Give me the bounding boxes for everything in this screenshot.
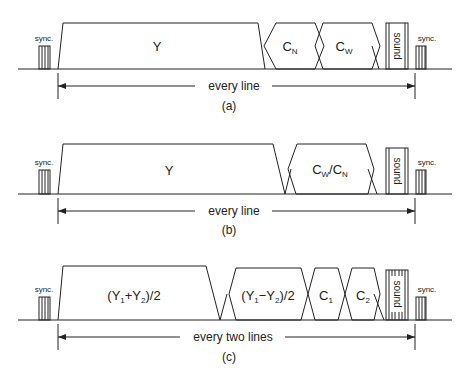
sound-block-c: sound <box>386 270 408 320</box>
y-label-a: Y <box>153 39 162 54</box>
span-label-a: every line <box>208 79 260 93</box>
y-label-b: Y <box>165 163 174 178</box>
panel-c: sync. (Y1+Y2)/2 (Y1−Y2)/2 C1 C2 sound <box>18 266 452 364</box>
panel-b: sync. Y CW/CN sound sync. every line (b) <box>18 144 452 237</box>
sound-label-a: sound <box>392 32 403 59</box>
caption-b: (b) <box>222 223 237 237</box>
cw-cn-label-b: CW/CN <box>312 162 348 179</box>
c2-label-c: C2 <box>356 288 370 305</box>
sync-label-right-b: sync. <box>418 158 437 167</box>
c1-label-c: C1 <box>319 288 333 305</box>
sync-pulse-right-b <box>416 170 426 194</box>
sync-pulse-left-b <box>39 170 50 194</box>
cw-label-a: CW <box>336 39 353 56</box>
sync-pulse-left-c <box>39 297 50 320</box>
y-diff-label-c: (Y1−Y2)/2 <box>241 288 294 305</box>
sound-block-b: sound <box>386 148 408 194</box>
sound-label-c: sound <box>392 280 403 307</box>
span-label-c: every two lines <box>193 330 272 344</box>
y-block-a <box>58 23 265 69</box>
span-label-b: every line <box>208 204 260 218</box>
sound-label-b: sound <box>392 157 403 184</box>
mac-line-format-diagram: sync. Y CN CW sound sync. every lin <box>0 0 471 378</box>
sync-label-right-c: sync. <box>418 285 437 294</box>
cw-block-a <box>315 23 380 69</box>
sync-label-left-c: sync. <box>35 285 54 294</box>
caption-a: (a) <box>222 99 237 113</box>
cn-label-a: CN <box>282 39 297 56</box>
sync-label-left-b: sync. <box>35 158 54 167</box>
sound-block-a: sound <box>386 23 408 69</box>
sync-pulse-right-c <box>416 297 426 320</box>
sync-pulse-right-a <box>416 46 426 69</box>
y-sum-label-c: (Y1+Y2)/2 <box>107 288 160 305</box>
sync-pulse-left-a <box>39 46 50 69</box>
sync-label-right-a: sync. <box>418 34 437 43</box>
sync-label-left-a: sync. <box>35 34 54 43</box>
caption-c: (c) <box>222 350 236 364</box>
panel-a: sync. Y CN CW sound sync. every lin <box>18 23 452 113</box>
